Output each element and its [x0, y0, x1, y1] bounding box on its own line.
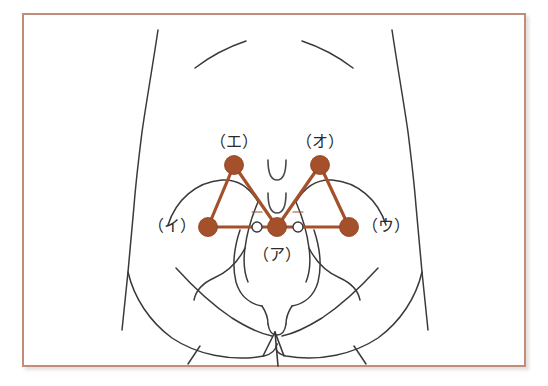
connector-o-to-u — [320, 165, 349, 227]
anatomy-diagram: （エ） （オ） （イ） （ウ） （ア） — [0, 0, 548, 386]
body-outline-group — [122, 30, 428, 364]
open-marker-left[interactable] — [252, 222, 262, 232]
figure-root: （エ） （オ） （イ） （ウ） （ア） — [0, 0, 548, 386]
left-sciatic-notch — [194, 248, 245, 300]
landmark-label-o: （オ） — [296, 133, 344, 150]
left-buttock-upper-fold — [176, 268, 272, 336]
landmark-marker-o[interactable] — [311, 156, 330, 175]
landmark-label-i: （イ） — [148, 217, 196, 234]
coccyx-left-edge — [262, 306, 268, 324]
landmark-marker-u[interactable] — [340, 218, 359, 237]
left-ilium-inner-edge — [244, 202, 258, 282]
connector-i-to-e — [208, 165, 234, 227]
spinous-process-lower-u-icon — [268, 193, 286, 213]
sacrum-right-border — [292, 230, 320, 306]
right-rib-arc — [302, 41, 353, 68]
left-waist-contour — [122, 30, 158, 330]
right-thigh-stub — [354, 346, 366, 364]
upward-arrow-icon — [263, 332, 284, 366]
landmark-marker-e[interactable] — [225, 156, 244, 175]
right-sciatic-notch — [309, 248, 360, 300]
right-buttock-outer-sweep — [276, 272, 422, 358]
landmark-label-u: （ウ） — [362, 217, 410, 234]
right-buttock-upper-fold — [282, 268, 378, 336]
left-rib-arc — [195, 41, 246, 68]
right-ilium-inner-edge — [296, 202, 310, 282]
landmark-marker-a[interactable] — [268, 218, 287, 237]
landmark-label-a: （ア） — [253, 246, 301, 263]
spinous-process-upper-u-icon — [268, 160, 286, 180]
spinous-process-group — [268, 160, 286, 213]
landmark-label-e: （エ） — [210, 133, 258, 150]
coccyx-tip — [268, 324, 286, 335]
right-waist-contour — [392, 30, 428, 330]
coccyx-right-edge — [286, 306, 292, 324]
landmark-marker-i[interactable] — [199, 218, 218, 237]
sacrum-left-border — [234, 230, 262, 306]
open-marker-right[interactable] — [293, 222, 303, 232]
